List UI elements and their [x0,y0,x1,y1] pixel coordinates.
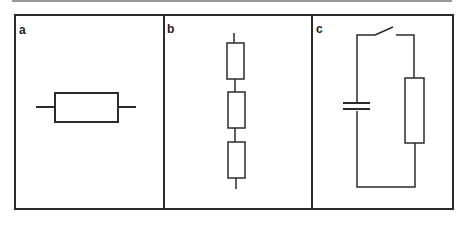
wire-bottom [357,111,415,187]
resistor-icon-1 [227,43,244,79]
wire-right-top [396,35,414,78]
resistor-icon-3 [228,142,245,178]
resistor-icon [55,93,118,122]
panel-a-resistor [36,93,136,122]
wire-left-top [357,35,375,103]
resistor-icon [405,78,424,143]
panel-c-circuit [343,27,424,187]
circuit-diagrams [0,0,465,225]
switch-icon [375,27,393,35]
panel-b-series-resistors [227,33,245,189]
resistor-icon-2 [228,92,245,128]
